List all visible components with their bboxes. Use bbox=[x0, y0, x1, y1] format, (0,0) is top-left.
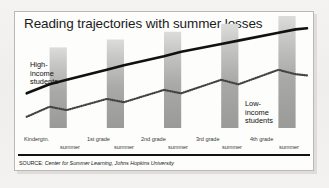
source-text: Center for Summer Learning, Johns Hopkin… bbox=[45, 160, 174, 166]
high-income-label-line: students bbox=[30, 78, 58, 87]
axis-tick-grade: 1st grade bbox=[87, 136, 110, 142]
axis-tick-summer: summer bbox=[168, 144, 188, 150]
axis-tick-grade: 3rd grade bbox=[196, 136, 220, 142]
high-income-annotation: High-incomestudents bbox=[30, 61, 58, 87]
axis-tick-grade: Kindergtn. bbox=[24, 136, 49, 142]
axis-tick-grade: 4th grade bbox=[250, 136, 273, 142]
source-prefix: SOURCE: bbox=[19, 160, 43, 166]
summer-bar bbox=[50, 47, 67, 128]
axis-tick-summer: summer bbox=[114, 144, 134, 150]
summer-bar bbox=[221, 24, 238, 128]
axis-tick-summer: summer bbox=[279, 144, 299, 150]
axis-tick-summer: summer bbox=[60, 144, 80, 150]
chart-figure: Reading trajectories with summer losses … bbox=[0, 0, 329, 188]
axis-tick-summer: summer bbox=[222, 144, 242, 150]
summer-bar bbox=[107, 40, 124, 129]
divider-rule bbox=[18, 154, 310, 156]
axis-tick-grade: 2nd grade bbox=[141, 136, 166, 142]
low-income-label-line: students bbox=[245, 117, 273, 126]
source-note: SOURCE: Center for Summer Learning, John… bbox=[19, 160, 174, 166]
summer-bar bbox=[164, 32, 181, 128]
low-income-annotation: Low-incomestudents bbox=[245, 100, 273, 126]
